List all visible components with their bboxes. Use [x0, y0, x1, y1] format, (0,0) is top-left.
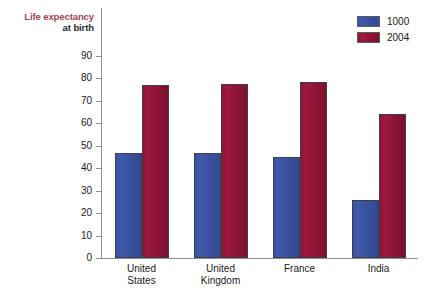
- bar-united-kingdom-2004: [221, 84, 248, 258]
- bar-france-2004: [300, 82, 327, 258]
- y-tick-label-80: 80: [62, 73, 92, 83]
- x-label-line: India: [334, 263, 424, 275]
- y-tick-label-text: 0: [66, 253, 92, 263]
- x-axis-line: [101, 258, 418, 259]
- bar-france-1000: [273, 157, 300, 258]
- x-label-line: Kingdom: [176, 275, 266, 287]
- x-label-line: United: [176, 263, 266, 275]
- y-tick-label-text: 70: [66, 96, 92, 106]
- y-tick-label-40: 40: [62, 163, 92, 173]
- y-tick-label-70: 70: [62, 96, 92, 106]
- bar-india-2004: [379, 114, 406, 258]
- bar-chart: Life expectancy at birth 1000 2004 01020…: [0, 0, 430, 297]
- plot-area: [102, 8, 418, 258]
- bar-united-states-2004: [142, 85, 169, 258]
- y-tick-0: [96, 258, 102, 259]
- y-tick-label-text: 10: [66, 231, 92, 241]
- y-tick-label-50: 50: [62, 141, 92, 151]
- y-tick-label-0: 0: [62, 253, 92, 263]
- bar-united-kingdom-1000: [194, 153, 221, 258]
- x-label-united-states: UnitedStates: [97, 263, 187, 287]
- bar-india-1000: [352, 200, 379, 258]
- x-label-united-kingdom: UnitedKingdom: [176, 263, 266, 287]
- y-tick-label-30: 30: [62, 186, 92, 196]
- y-tick-label-text: 60: [66, 118, 92, 128]
- chart-title-line-2: at birth: [6, 22, 94, 33]
- y-tick-label-text: 20: [66, 208, 92, 218]
- chart-title: Life expectancy at birth: [6, 11, 94, 33]
- chart-title-line-1: Life expectancy: [6, 11, 94, 22]
- y-tick-label-10: 10: [62, 231, 92, 241]
- x-label-france: France: [255, 263, 345, 275]
- x-label-line: United: [97, 263, 187, 275]
- y-tick-label-text: 50: [66, 141, 92, 151]
- x-label-india: India: [334, 263, 424, 275]
- y-tick-label-60: 60: [62, 118, 92, 128]
- bar-united-states-1000: [115, 153, 142, 258]
- y-tick-label-90: 90: [62, 51, 92, 61]
- y-tick-label-text: 80: [66, 73, 92, 83]
- y-tick-label-text: 30: [66, 186, 92, 196]
- y-tick-label-20: 20: [62, 208, 92, 218]
- y-tick-label-text: 90: [66, 51, 92, 61]
- x-label-line: France: [255, 263, 345, 275]
- x-label-line: States: [97, 275, 187, 287]
- y-tick-label-text: 40: [66, 163, 92, 173]
